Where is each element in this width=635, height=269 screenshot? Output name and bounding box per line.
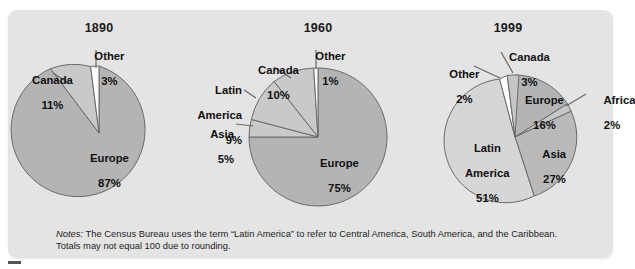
leader-africa xyxy=(566,94,586,106)
label-africa-1999: Africa 2% xyxy=(585,82,635,144)
label-latin-america-1999: Latin America 51% xyxy=(446,130,509,217)
notes-line-2: Totals may not equal 100 due to rounding… xyxy=(56,240,231,251)
label-other-1999: Other 2% xyxy=(431,56,480,118)
corner-mark-icon xyxy=(8,261,21,264)
notes-line-1: The Census Bureau uses the term “Latin A… xyxy=(83,228,557,239)
notes-label: Notes: xyxy=(56,228,83,239)
label-asia-1999: Asia 27% xyxy=(524,136,566,198)
figure-notes: Notes: The Census Bureau uses the term “… xyxy=(56,228,601,253)
label-europe-1999: Europe 16% xyxy=(506,82,564,144)
figure-panel: 1890 Other 3% Canada 11% Europe 87% 19 xyxy=(8,10,613,258)
